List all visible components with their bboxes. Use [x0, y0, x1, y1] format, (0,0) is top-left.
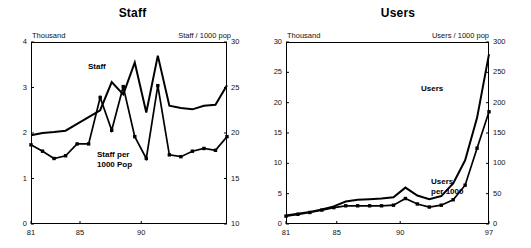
staff-series-1-marker: [64, 154, 67, 157]
users-series-1-marker: [320, 208, 323, 211]
staff-series-1-marker: [87, 142, 90, 145]
staff-y2tick-label: 20: [231, 128, 255, 137]
users-ytick-label: 25: [260, 67, 282, 76]
staff-series-1-marker: [52, 157, 55, 160]
users-series-1-marker: [356, 204, 359, 207]
staff-per-1000-label: Staff per1000 Pop: [97, 150, 132, 170]
users-series-1-marker: [308, 211, 311, 214]
users-xtick-label: 97: [478, 228, 500, 237]
users-series-1-marker: [416, 202, 419, 205]
users-per-1000-label: Usersper 1000: [431, 177, 463, 197]
users-series-1-marker: [332, 206, 335, 209]
staff-series-1-marker: [41, 150, 44, 153]
staff-series-1-marker: [179, 155, 182, 158]
users-xtick-label: 85: [326, 228, 348, 237]
users-ytick-label: 0: [260, 219, 282, 228]
chart-panel-staff: Staff Thousand Staff / 1000 pop 01234101…: [0, 0, 265, 248]
users-series-1-marker: [344, 204, 347, 207]
staff-series-1-marker: [225, 135, 228, 138]
chart-panel-users: Users Thousand Users / 1000 pop 05101520…: [265, 0, 531, 248]
users-series-1-marker: [392, 203, 395, 206]
staff-y2tick-label: 30: [231, 37, 255, 46]
staff-y2tick-label: 25: [231, 83, 255, 92]
staff-series-1-marker: [214, 149, 217, 152]
users-line-label-line-0: Users: [421, 84, 443, 94]
users-series-1-marker: [380, 204, 383, 207]
staff-ytick-label: 1: [5, 174, 27, 183]
staff-xtick-label: 81: [20, 228, 42, 237]
staff-ytick-label: 2: [5, 128, 27, 137]
staff-ytick-label: 4: [5, 37, 27, 46]
staff-series-1-marker: [75, 142, 78, 145]
users-series-1-marker: [463, 183, 466, 186]
staff-ytick-label: 0: [5, 219, 27, 228]
staff-series-1-marker: [98, 96, 101, 99]
users-series-1-marker: [475, 146, 478, 149]
users-series-1-marker: [428, 205, 431, 208]
users-series-1-marker: [440, 203, 443, 206]
staff-series-1-marker: [29, 143, 32, 146]
staff-y2tick-label: 15: [231, 174, 255, 183]
users-xtick-label: 81: [275, 228, 297, 237]
users-y2tick-label: 200: [493, 98, 517, 107]
users-ytick-label: 20: [260, 98, 282, 107]
users-y2tick-label: 150: [493, 128, 517, 137]
users-per-1000-label-line-0: Users: [431, 177, 463, 187]
users-series-1-marker: [296, 213, 299, 216]
staff-series-1-marker: [168, 153, 171, 156]
users-y2tick-label: 50: [493, 189, 517, 198]
staff-ytick-label: 3: [5, 83, 27, 92]
users-y2tick-label: 250: [493, 67, 517, 76]
users-series-1-marker: [284, 214, 287, 217]
users-series-1-line: [286, 112, 489, 216]
users-ytick-label: 5: [260, 189, 282, 198]
users-y2tick-label: 300: [493, 37, 517, 46]
users-per-1000-label-line-1: per 1000: [431, 187, 463, 197]
users-ytick-label: 10: [260, 158, 282, 167]
users-series-1-marker: [451, 198, 454, 201]
staff-line-label: Staff: [88, 62, 106, 72]
users-series-1-marker: [368, 204, 371, 207]
staff-xtick-label: 85: [69, 228, 91, 237]
users-ytick-label: 15: [260, 128, 282, 137]
users-series-1-marker: [487, 110, 490, 113]
figure-root: Staff Thousand Staff / 1000 pop 01234101…: [0, 0, 531, 248]
users-y2tick-label: 0: [493, 219, 517, 228]
staff-series-1-marker: [156, 84, 159, 87]
staff-per-1000-label-line-0: Staff per: [97, 150, 132, 160]
staff-per-1000-label-line-1: 1000 Pop: [97, 160, 132, 170]
staff-xtick-label: 90: [130, 228, 152, 237]
users-xtick-label: 90: [389, 228, 411, 237]
staff-line-label-line-0: Staff: [88, 62, 106, 72]
users-plot-canvas: [265, 0, 531, 248]
staff-series-1-marker: [133, 135, 136, 138]
staff-plot-canvas: [0, 0, 265, 248]
staff-series-1-marker: [145, 157, 148, 160]
users-ytick-label: 30: [260, 37, 282, 46]
users-series-1-marker: [404, 197, 407, 200]
staff-series-0-line: [31, 56, 227, 136]
users-y2tick-label: 100: [493, 158, 517, 167]
staff-series-1-marker: [202, 147, 205, 150]
staff-series-1-marker: [191, 150, 194, 153]
staff-y2tick-label: 10: [231, 219, 255, 228]
staff-series-1-marker: [122, 85, 125, 88]
staff-series-1-line: [31, 86, 227, 159]
staff-series-1-marker: [110, 129, 113, 132]
users-line-label: Users: [421, 84, 443, 94]
